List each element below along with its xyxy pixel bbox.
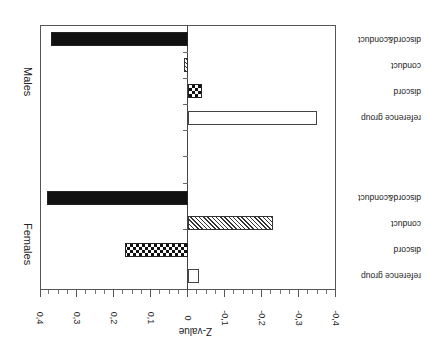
x-minor-tick xyxy=(67,290,68,294)
x-tick-label: 0 xyxy=(183,306,193,330)
category-label: discord&conduct xyxy=(341,193,421,203)
x-minor-tick xyxy=(252,290,253,294)
x-minor-tick xyxy=(58,290,59,294)
x-minor-tick xyxy=(280,290,281,294)
bar-females-discord xyxy=(125,243,188,257)
x-tick-label: -0,2 xyxy=(257,306,267,330)
x-minor-tick xyxy=(317,290,318,294)
category-label: discord xyxy=(341,87,421,97)
x-tick xyxy=(76,290,77,297)
x-tick-label: 0,3 xyxy=(72,306,82,330)
x-minor-tick xyxy=(159,290,160,294)
x-tick xyxy=(187,290,188,297)
x-minor-tick xyxy=(141,290,142,294)
y-tick xyxy=(183,130,188,131)
x-tick xyxy=(40,290,41,297)
group-label-males: Males xyxy=(22,67,34,96)
x-minor-tick xyxy=(178,290,179,294)
x-tick-label: 0,2 xyxy=(109,306,119,330)
x-tick-label: 0,4 xyxy=(35,306,45,330)
bar-males-conduct xyxy=(184,58,188,72)
x-minor-tick xyxy=(215,290,216,294)
chart-canvas: Z-value -0,4 -0,3 -0,2 -0,1 0 0,1 0,2 0,… xyxy=(0,0,427,337)
x-tick xyxy=(150,290,151,297)
x-minor-tick xyxy=(270,290,271,294)
category-label: conduct xyxy=(341,61,421,71)
x-tick-label: -0,4 xyxy=(331,306,341,330)
x-minor-tick xyxy=(206,290,207,294)
bar-females-discord-conduct xyxy=(47,191,188,205)
bar-males-discord xyxy=(188,84,202,98)
group-label-females: Females xyxy=(22,223,34,265)
x-minor-tick xyxy=(85,290,86,294)
y-tick xyxy=(183,52,188,53)
x-tick-label: 0,1 xyxy=(146,306,156,330)
x-tick xyxy=(298,290,299,297)
x-minor-tick xyxy=(122,290,123,294)
x-minor-tick xyxy=(289,290,290,294)
x-tick xyxy=(261,290,262,297)
y-tick xyxy=(183,104,188,105)
x-tick-label: -0,3 xyxy=(294,306,304,330)
category-label: conduct xyxy=(341,219,421,229)
x-tick xyxy=(335,290,336,297)
y-tick xyxy=(183,156,188,157)
x-minor-tick xyxy=(243,290,244,294)
x-minor-tick xyxy=(132,290,133,294)
x-tick-label: -0,1 xyxy=(220,306,230,330)
plot-frame xyxy=(40,25,336,290)
y-tick xyxy=(183,183,188,184)
x-minor-tick xyxy=(233,290,234,294)
bar-males-reference-group xyxy=(188,111,317,125)
x-minor-tick xyxy=(307,290,308,294)
x-minor-tick xyxy=(326,290,327,294)
x-minor-tick xyxy=(48,290,49,294)
x-minor-tick xyxy=(95,290,96,294)
bar-females-reference-group xyxy=(188,269,199,283)
category-label: discord xyxy=(341,245,421,255)
x-minor-tick xyxy=(169,290,170,294)
y-tick xyxy=(183,78,188,79)
x-minor-tick xyxy=(104,290,105,294)
x-tick xyxy=(113,290,114,297)
category-label: reference group xyxy=(341,113,421,123)
category-label: reference group xyxy=(341,271,421,281)
x-tick xyxy=(224,290,225,297)
bar-males-discord-conduct xyxy=(51,32,188,46)
bar-females-conduct xyxy=(188,216,273,230)
category-label: discord&conduct xyxy=(341,35,421,45)
x-minor-tick xyxy=(196,290,197,294)
